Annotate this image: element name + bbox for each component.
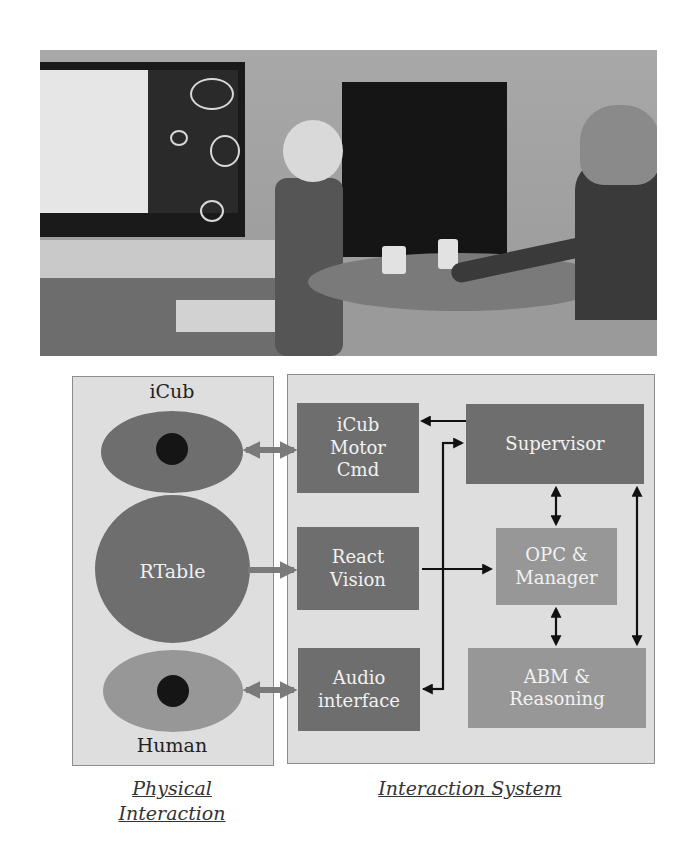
physical-interaction-caption: Physical Interaction: [82, 776, 262, 825]
caption-line: Interaction: [82, 801, 262, 826]
caption-line: Physical: [82, 776, 262, 801]
connection-arrows: [0, 0, 685, 850]
audio-supervisor-line: [423, 443, 462, 689]
interaction-system-caption: Interaction System: [330, 776, 610, 801]
